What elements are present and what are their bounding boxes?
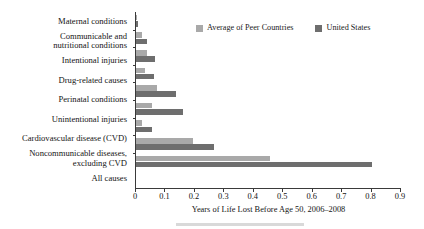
x-axis-tick-label: 0.8 xyxy=(365,192,375,202)
bar-united-states xyxy=(136,162,372,168)
bar-row xyxy=(136,12,401,30)
y-axis-label: Intentional injuries xyxy=(0,56,127,65)
x-axis-tick-label: 0.9 xyxy=(395,192,405,202)
y-axis-tick xyxy=(133,30,136,31)
bar-row xyxy=(136,65,401,83)
y-axis-label: Drug-related causes xyxy=(0,76,127,85)
y-axis-label-line: All causes xyxy=(0,174,127,183)
y-axis-label: Noncommunicable diseases,excluding CVD xyxy=(0,149,127,168)
page-scan-artifact xyxy=(176,223,304,226)
y-axis-tick xyxy=(133,135,136,136)
y-axis-category-labels: Maternal conditionsCommunicable andnutri… xyxy=(0,12,131,188)
y-axis-label-line: Maternal conditions xyxy=(0,17,127,26)
y-axis-tick xyxy=(133,82,136,83)
bar-peer-countries xyxy=(136,103,152,109)
y-axis-label-line: Cardiovascular disease (CVD) xyxy=(0,134,127,143)
bar-united-states xyxy=(136,56,155,62)
x-axis-tick-label: 0 xyxy=(133,192,137,202)
y-axis-tick xyxy=(133,118,136,119)
bar-peer-countries xyxy=(136,32,142,38)
bar-united-states xyxy=(136,109,183,115)
y-axis-label: Cardiovascular disease (CVD) xyxy=(0,134,127,143)
plot-area xyxy=(135,12,401,188)
bar-peer-countries xyxy=(136,15,137,21)
y-axis-label-line: Drug-related causes xyxy=(0,76,127,85)
x-axis-tick-label: 0.1 xyxy=(159,192,169,202)
y-axis-label-line: Unintentional injuries xyxy=(0,115,127,124)
y-axis-label: Maternal conditions xyxy=(0,17,127,26)
chart-figure: Average of Peer Countries United States … xyxy=(0,0,424,229)
x-axis-title: Years of Life Lost Before Age 50, 2006–2… xyxy=(135,205,402,214)
bar-peer-countries xyxy=(136,120,142,126)
bar-row xyxy=(136,135,401,153)
y-axis-label-line: Perinatal conditions xyxy=(0,95,127,104)
bar-peer-countries xyxy=(136,68,145,74)
y-axis-label-line: excluding CVD xyxy=(0,159,127,168)
x-axis-tick-label: 0.5 xyxy=(277,192,287,202)
bar-united-states xyxy=(136,144,214,150)
bar-row xyxy=(136,82,401,100)
y-axis-tick xyxy=(133,100,136,101)
x-axis-tick-labels: 00.10.20.30.40.50.60.70.80.9 xyxy=(135,192,402,204)
bar-united-states xyxy=(136,74,154,80)
y-axis-label: All causes xyxy=(0,174,127,183)
bar-peer-countries xyxy=(136,156,270,162)
x-axis-tick-label: 0.4 xyxy=(248,192,258,202)
bar-united-states xyxy=(136,39,147,45)
bar-row xyxy=(136,118,401,136)
bar-row xyxy=(136,153,401,171)
y-axis-label-line: nutritional conditions xyxy=(0,41,127,50)
y-axis-tick xyxy=(133,153,136,154)
bar-row xyxy=(136,100,401,118)
bar-rows xyxy=(136,12,401,188)
bar-united-states xyxy=(136,127,152,133)
y-axis-label: Perinatal conditions xyxy=(0,95,127,104)
bar-peer-countries xyxy=(136,138,193,144)
x-axis-tick-label: 0.6 xyxy=(306,192,316,202)
y-axis-label: Communicable andnutritional conditions xyxy=(0,32,127,51)
y-axis-tick xyxy=(133,65,136,66)
bar-row xyxy=(136,30,401,48)
y-axis-label-line: Intentional injuries xyxy=(0,56,127,65)
bar-row xyxy=(136,47,401,65)
y-axis-label: Unintentional injuries xyxy=(0,115,127,124)
y-axis-tick xyxy=(133,47,136,48)
bar-peer-countries xyxy=(136,50,147,56)
x-axis-tick-label: 0.3 xyxy=(218,192,228,202)
x-axis-tick-label: 0.7 xyxy=(336,192,346,202)
bar-united-states xyxy=(136,21,138,27)
x-axis-tick-label: 0.2 xyxy=(189,192,199,202)
bar-peer-countries xyxy=(136,85,157,91)
bar-united-states xyxy=(136,91,176,97)
